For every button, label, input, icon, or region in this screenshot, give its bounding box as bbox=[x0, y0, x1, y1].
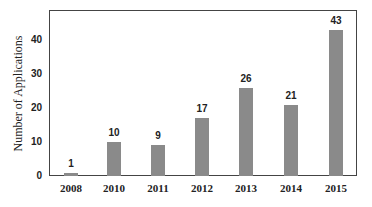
x-tick-label: 2010 bbox=[94, 182, 134, 194]
bar-value-label: 1 bbox=[56, 159, 86, 169]
x-tick-label: 2011 bbox=[138, 182, 178, 194]
y-axis-label: Number of Applications bbox=[11, 34, 26, 154]
bar-value-label: 26 bbox=[231, 74, 261, 84]
bar-value-label: 17 bbox=[187, 104, 217, 114]
bar-value-label: 9 bbox=[143, 131, 173, 141]
y-tick-label: 40 bbox=[22, 35, 42, 45]
x-tick-label: 2008 bbox=[51, 182, 91, 194]
bar-2014 bbox=[284, 105, 298, 176]
x-tick-label: 2013 bbox=[226, 182, 266, 194]
bar-2013 bbox=[239, 88, 253, 176]
y-tick-label: 30 bbox=[22, 69, 42, 79]
x-tick-label: 2015 bbox=[316, 182, 356, 194]
bar-value-label: 43 bbox=[321, 16, 351, 26]
bar-chart: Number of Applications 010203040 1200810… bbox=[0, 0, 372, 207]
x-tick-label: 2014 bbox=[271, 182, 311, 194]
bar-2008 bbox=[64, 173, 78, 176]
bar-2010 bbox=[107, 142, 121, 176]
x-tick-label: 2012 bbox=[182, 182, 222, 194]
bar-2015 bbox=[329, 30, 343, 176]
y-tick-label: 10 bbox=[22, 137, 42, 147]
bar-value-label: 10 bbox=[99, 128, 129, 138]
y-tick-label: 20 bbox=[22, 103, 42, 113]
bar-2012 bbox=[195, 118, 209, 176]
y-tick-label: 0 bbox=[22, 171, 42, 181]
bar-2011 bbox=[151, 145, 165, 176]
bar-value-label: 21 bbox=[276, 91, 306, 101]
